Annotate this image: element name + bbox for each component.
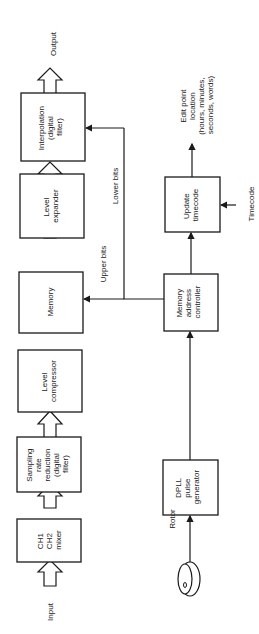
rotor-icon: [178, 562, 200, 596]
label-mixer: CH1 CH2 mixer: [36, 530, 63, 550]
label-memory: Memory: [46, 288, 55, 317]
label-rotor: Rotor: [168, 509, 177, 529]
label-input: Input: [46, 602, 55, 621]
label-edit-point-location: Edit point location (hours, minutes, sec…: [179, 75, 215, 135]
fat-arrow-input: [38, 560, 62, 586]
block-diagram: CH1 CH2 mixer Sampling rate reduction (d…: [0, 0, 259, 634]
label-memory-address-controller: Memory address controller: [175, 285, 202, 318]
fat-arrow-output: [38, 68, 62, 94]
label-output: Output: [49, 31, 58, 56]
label-update-timecode: Update timecode: [182, 188, 200, 221]
label-lower-bits: Lower bits: [111, 168, 120, 204]
label-timecode: Timecode: [247, 186, 256, 221]
fat-arrow-sampling-to-compressor: [38, 411, 62, 438]
label-upper-bits: Upper bits: [99, 246, 108, 282]
bus-address-lines: [124, 128, 164, 299]
